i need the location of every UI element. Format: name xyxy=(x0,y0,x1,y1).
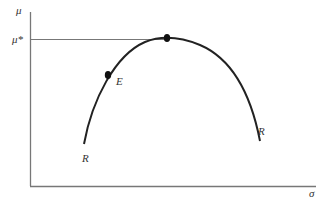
point-e-label: E xyxy=(116,75,123,87)
peak-point xyxy=(164,34,170,42)
rr-curve xyxy=(84,38,260,144)
point-e xyxy=(105,71,111,79)
diagram-canvas xyxy=(0,0,330,199)
y-axis-label: μ xyxy=(16,4,22,16)
mu-star-label: μ* xyxy=(12,33,23,45)
curve-end-label: R xyxy=(258,125,265,137)
x-axis-label: σ xyxy=(309,187,314,199)
curve-start-label: R xyxy=(82,152,89,164)
